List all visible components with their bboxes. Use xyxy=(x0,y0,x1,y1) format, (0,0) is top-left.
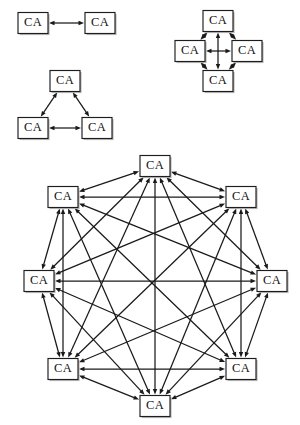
node-label: CA xyxy=(54,189,72,203)
edge-diamond-d1-d3 xyxy=(229,32,236,40)
edge-octagon-o3-o4 xyxy=(245,292,268,357)
edge-triangle-t2-t3 xyxy=(49,126,81,130)
edge-diamond-d3-d4 xyxy=(229,62,236,70)
diagram-canvas: CACACACACACACACACACACACACACACACACA xyxy=(0,0,300,425)
node-label: CA xyxy=(232,361,250,375)
edge-octagon-o1-o8 xyxy=(79,171,139,192)
node-label: CA xyxy=(91,15,109,29)
edge-octagon-o3-o6 xyxy=(79,288,256,363)
edge-octagon-o7-o8 xyxy=(42,208,61,269)
node-diamond-d4[interactable]: CA xyxy=(203,71,235,94)
node-triangle-t2[interactable]: CA xyxy=(18,118,50,141)
node-label: CA xyxy=(56,73,74,87)
edge-octagon-o2-o8 xyxy=(79,195,225,199)
node-label: CA xyxy=(24,120,42,134)
node-label: CA xyxy=(88,120,106,134)
node-diamond-d3[interactable]: CA xyxy=(232,41,264,64)
edge-diamond-d1-d2 xyxy=(200,32,207,40)
node-label: CA xyxy=(263,273,281,287)
node-label: CA xyxy=(24,15,42,29)
node-octagon-o6[interactable]: CA xyxy=(48,359,80,382)
edge-octagon-o1-o2 xyxy=(171,172,225,192)
node-pair-p1[interactable]: CA xyxy=(18,13,50,36)
node-octagon-o2[interactable]: CA xyxy=(226,187,258,210)
edge-octagon-o6-o7 xyxy=(41,292,60,357)
edge-octagon-o4-o5 xyxy=(171,376,225,399)
edge-octagon-o5-o8 xyxy=(68,208,150,394)
node-pair-p2[interactable]: CA xyxy=(85,13,117,36)
edge-octagon-o6-o8 xyxy=(61,209,65,358)
edge-triangle-t1-t3 xyxy=(73,92,90,116)
node-label: CA xyxy=(181,43,199,57)
node-label: CA xyxy=(54,361,72,375)
node-octagon-o7[interactable]: CA xyxy=(24,271,56,294)
edge-octagon-o2-o3 xyxy=(245,208,268,269)
node-label: CA xyxy=(209,73,227,87)
node-diamond-d1[interactable]: CA xyxy=(203,11,235,34)
node-octagon-o3[interactable]: CA xyxy=(257,271,289,294)
node-octagon-o5[interactable]: CA xyxy=(140,396,172,419)
edge-pair-p1-p2 xyxy=(49,21,84,25)
node-label: CA xyxy=(238,43,256,57)
node-octagon-o4[interactable]: CA xyxy=(226,359,258,382)
edge-triangle-t1-t2 xyxy=(41,92,58,116)
node-label: CA xyxy=(209,13,227,27)
node-diamond-d2[interactable]: CA xyxy=(175,41,207,64)
edge-octagon-o4-o6 xyxy=(79,367,225,371)
node-triangle-t1[interactable]: CA xyxy=(50,71,82,94)
node-label: CA xyxy=(146,158,164,172)
node-triangle-t3[interactable]: CA xyxy=(82,118,114,141)
node-label: CA xyxy=(146,398,164,412)
node-label: CA xyxy=(30,273,48,287)
edge-diamond-d2-d4 xyxy=(200,62,207,70)
node-octagon-o8[interactable]: CA xyxy=(48,187,80,210)
node-label: CA xyxy=(232,189,250,203)
edge-octagon-o2-o4 xyxy=(239,209,243,358)
edge-octagon-o1-o4 xyxy=(160,177,236,357)
ca-topology-figure: CACACACACACACACACACACACACACACACACA xyxy=(0,0,300,425)
node-octagon-o1[interactable]: CA xyxy=(140,156,172,179)
